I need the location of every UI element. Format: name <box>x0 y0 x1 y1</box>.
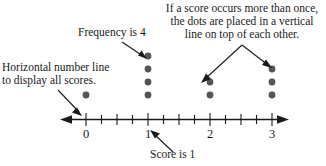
tick-label-2: 2 <box>200 127 220 142</box>
caption-frequency: Frequency is 4 <box>78 26 146 39</box>
annotation-arrow-frequency <box>122 42 147 59</box>
caption-score: Score is 1 <box>150 148 195 161</box>
data-dot <box>145 79 152 86</box>
tick-label-3: 3 <box>262 127 282 142</box>
data-dot <box>207 92 214 99</box>
caption-vertical-dots: If a score occurs more than once, the do… <box>160 2 324 41</box>
caption-number-line: Horizontal number line to display all sc… <box>2 61 109 87</box>
data-dot <box>83 92 90 99</box>
data-dot <box>145 66 152 73</box>
tick-label-1: 1 <box>138 127 158 142</box>
annotation-arrow-vertical-dots <box>201 45 272 83</box>
dot-plot-figure: 0 1 2 3 Frequency is 4 Horizontal number… <box>0 0 326 166</box>
axis-arrow-left <box>60 115 72 124</box>
dot-stack-3 <box>269 66 276 99</box>
dot-stack-0 <box>83 92 90 99</box>
tick-label-0: 0 <box>76 127 96 142</box>
axis-arrow-right <box>277 115 289 124</box>
data-dot <box>269 79 276 86</box>
dot-stack-2 <box>207 79 214 99</box>
data-dot <box>269 92 276 99</box>
dot-stack-1 <box>145 53 152 99</box>
number-line-axis <box>60 115 289 124</box>
annotation-arrow-number-line <box>58 90 82 116</box>
data-dot <box>145 92 152 99</box>
